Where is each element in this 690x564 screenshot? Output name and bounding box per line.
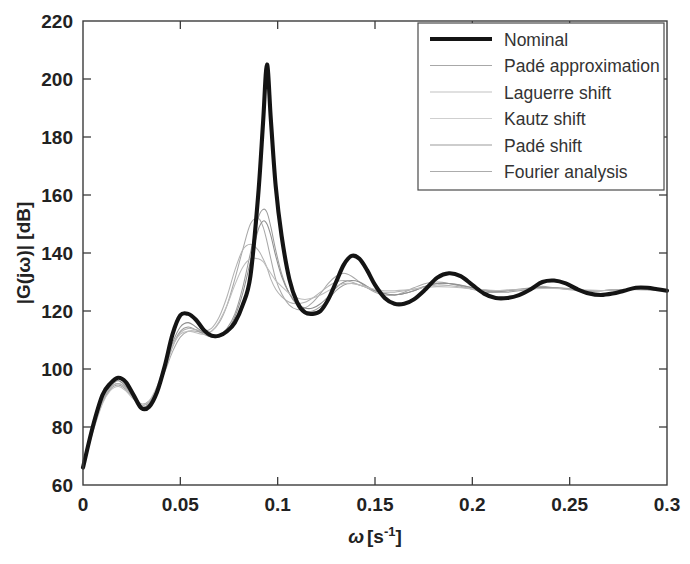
- figure-container: 00.050.10.150.20.250.3 60801001201401601…: [0, 0, 690, 564]
- y-axis-title-text: |G(jω)| [dB]: [13, 202, 34, 305]
- legend-label: Padé approximation: [504, 56, 660, 76]
- x-axis-title: ω[s-1]: [348, 524, 402, 547]
- y-tick-label: 220: [41, 11, 73, 32]
- x-tick-label: 0.1: [264, 494, 291, 515]
- legend: NominalPadé approximationLaguerre shiftK…: [418, 23, 664, 190]
- y-tick-label: 120: [41, 301, 73, 322]
- x-tick-label: 0.2: [459, 494, 485, 515]
- legend-label: Nominal: [504, 30, 568, 50]
- svg-text:ω[s-1]: ω[s-1]: [348, 524, 402, 547]
- y-tick-label: 60: [52, 475, 73, 496]
- x-axis-title-exponent: -1: [384, 524, 396, 539]
- x-tick-label: 0.3: [654, 494, 680, 515]
- y-axis-tick-labels: 6080100120140160180200220: [41, 11, 73, 496]
- legend-label: Padé shift: [504, 136, 582, 156]
- x-axis-tick-labels: 00.050.10.150.20.250.3: [78, 494, 681, 515]
- x-axis-title-close: ]: [396, 526, 402, 547]
- y-tick-label: 200: [41, 69, 73, 90]
- y-tick-label: 140: [41, 243, 73, 264]
- y-tick-label: 100: [41, 359, 73, 380]
- y-tick-label: 180: [41, 127, 73, 148]
- legend-label: Kautz shift: [504, 109, 586, 129]
- x-axis-title-unit: [s: [367, 526, 384, 547]
- y-tick-label: 160: [41, 185, 73, 206]
- y-tick-label: 80: [52, 417, 73, 438]
- x-tick-label: 0.15: [357, 494, 394, 515]
- x-tick-label: 0.25: [551, 494, 588, 515]
- x-tick-label: 0.05: [162, 494, 199, 515]
- x-axis-title-symbol: ω: [348, 526, 364, 547]
- legend-label: Fourier analysis: [504, 162, 628, 182]
- bode-magnitude-chart: 00.050.10.150.20.250.3 60801001201401601…: [0, 0, 690, 564]
- y-axis-title: |G(jω)| [dB]: [13, 202, 34, 305]
- x-tick-label: 0: [78, 494, 89, 515]
- legend-label: Laguerre shift: [504, 83, 611, 103]
